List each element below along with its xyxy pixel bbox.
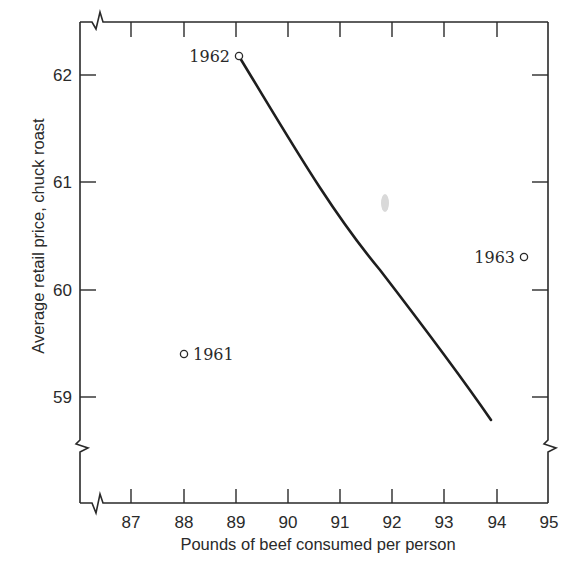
y-tick-label: 62 [53,66,72,85]
point-1962-label: 1962 [189,47,230,66]
top-axis-line [80,12,548,29]
y-ticks-left [80,75,96,397]
y-tick-label: 60 [53,281,72,300]
data-points: 1962 1963 1961 [180,47,527,364]
x-ticks-top [131,22,497,37]
scan-smudge [381,194,389,212]
x-tick-label: 91 [331,513,350,532]
point-1961-label: 1961 [193,345,234,364]
point-1961-marker [180,350,187,357]
y-ticks-right [532,75,548,397]
x-tick-label: 87 [122,513,141,532]
chart: 87 88 89 90 91 92 93 94 95 59 60 61 62 P… [0,0,570,565]
y-axis-title: Average retail price, chuck roast [29,118,47,354]
x-axis-title: Pounds of beef consumed per person [180,535,455,553]
x-tick-label: 90 [279,513,298,532]
x-tick-label: 94 [488,513,507,532]
y-tick-labels: 59 60 61 62 [53,66,72,407]
point-1962-marker [235,52,242,59]
x-tick-label: 92 [383,513,402,532]
x-tick-labels: 87 88 89 90 91 92 93 94 95 [122,513,559,532]
y-tick-label: 61 [53,173,72,192]
y-tick-label: 59 [53,388,72,407]
x-tick-label: 93 [435,513,454,532]
x-tick-label: 88 [175,513,194,532]
x-tick-label: 89 [227,513,246,532]
point-1963-label: 1963 [474,248,515,267]
point-1963-marker [520,253,527,260]
x-ticks-bottom [131,489,497,503]
x-tick-label: 95 [540,513,559,532]
x-axis-line [80,494,548,513]
demand-curve [240,58,491,420]
right-axis-line [544,22,556,503]
y-axis-line [76,22,88,503]
